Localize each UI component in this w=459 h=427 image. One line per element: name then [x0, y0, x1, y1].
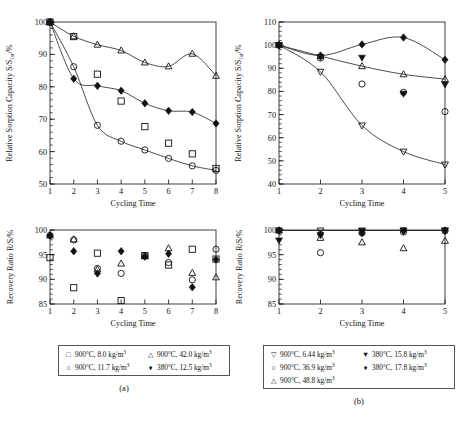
unit-exponent: 3 [332, 362, 335, 368]
svg-text:100: 100 [264, 226, 276, 235]
svg-text:Cycling Time: Cycling Time [340, 319, 385, 328]
svg-text:90: 90 [268, 64, 276, 73]
legend-a-entry: □900°C, 8.0 kg/m3 [62, 349, 144, 359]
unit-exponent: 3 [123, 349, 126, 355]
svg-text:2: 2 [72, 307, 76, 316]
open-triangle-up-icon: △ [144, 350, 157, 359]
svg-text:7: 7 [190, 187, 194, 196]
legend-a-label: 900°C, 11.7 kg/m3 [75, 362, 129, 372]
svg-text:90: 90 [39, 50, 47, 59]
unit-exponent: 3 [127, 362, 130, 368]
legend-a-label: 900°C, 42.0 kg/m3 [157, 349, 212, 359]
svg-text:1: 1 [48, 307, 52, 316]
legend-b-entry: ▼380°C, 15.8 kg/m3 [359, 349, 451, 359]
svg-text:95: 95 [268, 251, 276, 260]
svg-text:100: 100 [35, 226, 47, 235]
svg-text:40: 40 [268, 180, 276, 189]
chart-panel-b-bottom: 85909510012345Cycling TimeRecovery Ratio… [229, 218, 459, 340]
chart-svg-a-top: 506070809010012345678Cycling TimeRelativ… [0, 8, 230, 220]
svg-text:Cycling Time: Cycling Time [111, 199, 156, 208]
svg-text:6: 6 [167, 307, 171, 316]
svg-text:5: 5 [143, 187, 147, 196]
svg-text:6: 6 [167, 187, 171, 196]
svg-text:3: 3 [360, 307, 364, 316]
legend-a-label: 900°C, 8.0 kg/m3 [75, 349, 126, 359]
svg-text:2: 2 [318, 187, 322, 196]
svg-text:Recovery Ratio R/S/%: Recovery Ratio R/S/% [6, 230, 15, 305]
svg-text:4: 4 [401, 307, 405, 316]
filled-diamond-icon: ♦ [359, 363, 372, 372]
svg-text:70: 70 [39, 115, 47, 124]
svg-text:3: 3 [360, 187, 364, 196]
chart-svg-b-bottom: 85909510012345Cycling TimeRecovery Ratio… [229, 218, 459, 340]
open-circle-icon: ○ [267, 363, 280, 372]
legend-b-label: 380°C, 15.8 kg/m3 [372, 349, 427, 359]
chart-panel-a-top: 506070809010012345678Cycling TimeRelativ… [0, 8, 230, 220]
svg-text:3: 3 [95, 187, 99, 196]
svg-text:5: 5 [443, 307, 447, 316]
svg-text:85: 85 [39, 300, 47, 309]
svg-text:3: 3 [95, 307, 99, 316]
legend-b-row: ▽900°C, 6.44 kg/m3▼380°C, 15.8 kg/m3 [267, 348, 451, 361]
svg-text:80: 80 [268, 87, 276, 96]
svg-text:90: 90 [268, 275, 276, 284]
legend-b-label: 900°C, 48.8 kg/m3 [280, 375, 335, 385]
legend-b-label: 900°C, 36.9 kg/m3 [280, 362, 335, 372]
open-circle-icon: ○ [62, 363, 75, 372]
svg-text:110: 110 [264, 18, 276, 27]
legend-a-row: ○900°C, 11.7 kg/m3♦380°C, 12.5 kg/m3 [62, 361, 226, 374]
svg-text:50: 50 [268, 157, 276, 166]
svg-text:Relative Sorption Capacity S/S: Relative Sorption Capacity S/S1st/% [234, 44, 244, 162]
svg-text:4: 4 [401, 187, 405, 196]
legend-b-row: △900°C, 48.8 kg/m3 [267, 374, 451, 387]
svg-text:Relative Sorption Capacity S/S: Relative Sorption Capacity S/S1st/% [5, 44, 15, 162]
legend-b-row: ○900°C, 36.9 kg/m3♦380°C, 17.8 kg/m3 [267, 361, 451, 374]
legend-panel-b: ▽900°C, 6.44 kg/m3▼380°C, 15.8 kg/m3○900… [263, 345, 455, 389]
svg-text:80: 80 [39, 83, 47, 92]
svg-text:5: 5 [443, 187, 447, 196]
legend-a-entry: ♦380°C, 12.5 kg/m3 [144, 362, 226, 372]
svg-text:60: 60 [268, 134, 276, 143]
unit-exponent: 3 [424, 362, 427, 368]
legend-b-entry: ○900°C, 36.9 kg/m3 [267, 362, 359, 372]
unit-exponent: 3 [209, 349, 212, 355]
filled-diamond-icon: ♦ [144, 363, 157, 372]
figure-container: 506070809010012345678Cycling TimeRelativ… [0, 0, 459, 427]
legend-a-entry: ○900°C, 11.7 kg/m3 [62, 362, 144, 372]
svg-text:90: 90 [39, 275, 47, 284]
svg-text:Cycling Time: Cycling Time [111, 319, 156, 328]
legend-a-entry: △900°C, 42.0 kg/m3 [144, 349, 226, 359]
chart-panel-b-top: 40506070809010011012345Cycling TimeRelat… [229, 8, 459, 220]
open-square-icon: □ [62, 350, 75, 359]
unit-exponent: 3 [332, 349, 335, 355]
chart-svg-a-bottom: 85909510012345678Cycling TimeRecovery Ra… [0, 218, 230, 340]
svg-text:4: 4 [119, 307, 123, 316]
legend-b-label: 900°C, 6.44 kg/m3 [280, 349, 335, 359]
legend-b-label: 380°C, 17.8 kg/m3 [372, 362, 427, 372]
svg-text:Recovery Ratio R/S/%: Recovery Ratio R/S/% [235, 230, 244, 305]
svg-text:1: 1 [277, 307, 281, 316]
svg-text:100: 100 [35, 18, 47, 27]
legend-b-entry: △900°C, 48.8 kg/m3 [267, 375, 359, 385]
svg-text:Cycling Time: Cycling Time [340, 199, 385, 208]
svg-text:5: 5 [143, 307, 147, 316]
panel-label-b: (b) [339, 396, 379, 406]
panel-label-a: (a) [104, 383, 144, 393]
svg-text:2: 2 [72, 187, 76, 196]
open-triangle-down-icon: ▽ [267, 350, 280, 359]
svg-text:7: 7 [190, 307, 194, 316]
svg-text:85: 85 [268, 300, 276, 309]
filled-triangle-down-icon: ▼ [359, 350, 372, 359]
svg-text:8: 8 [214, 187, 218, 196]
legend-b-entry: ▽900°C, 6.44 kg/m3 [267, 349, 359, 359]
svg-text:8: 8 [214, 307, 218, 316]
unit-exponent: 3 [424, 349, 427, 355]
chart-svg-b-top: 40506070809010011012345Cycling TimeRelat… [229, 8, 459, 220]
open-triangle-up-icon: △ [267, 376, 280, 385]
legend-a-row: □900°C, 8.0 kg/m3△900°C, 42.0 kg/m3 [62, 348, 226, 361]
svg-text:70: 70 [268, 111, 276, 120]
svg-text:2: 2 [318, 307, 322, 316]
chart-panel-a-bottom: 85909510012345678Cycling TimeRecovery Ra… [0, 218, 230, 340]
unit-exponent: 3 [209, 362, 212, 368]
legend-b-entry: ♦380°C, 17.8 kg/m3 [359, 362, 451, 372]
